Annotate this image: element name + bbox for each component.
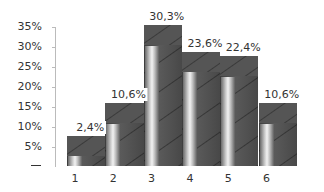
data-label: 10,6% — [109, 88, 148, 101]
bar-chart: 35% 30% 25% 20% 15% 10% 5% 123456 2,4%10… — [0, 0, 324, 192]
box-top-face — [182, 52, 220, 72]
x-tick-label: 4 — [180, 172, 200, 185]
box-top-face — [144, 25, 182, 45]
y-tick — [52, 67, 55, 68]
y-axis-zero-marker — [31, 165, 41, 166]
bar-cylinder — [68, 156, 82, 166]
box-top-face — [259, 103, 297, 123]
x-tick-label: 2 — [103, 172, 123, 185]
y-tick — [52, 147, 55, 148]
y-tick-label: 25% — [8, 60, 42, 73]
y-tick — [52, 87, 55, 88]
data-label: 30,3% — [147, 10, 186, 23]
y-tick-label: 30% — [8, 40, 42, 53]
data-label: 10,6% — [262, 88, 301, 101]
data-label: 23,6% — [186, 37, 225, 50]
y-tick-label: 10% — [8, 120, 42, 133]
box-top-face — [220, 56, 258, 76]
y-tick — [52, 27, 55, 28]
box-top-face — [105, 103, 143, 123]
y-tick-label: 35% — [8, 20, 42, 33]
y-tick — [52, 47, 55, 48]
data-label: 2,4% — [74, 121, 106, 134]
y-tick-label: 20% — [8, 80, 42, 93]
bar-cylinder — [106, 124, 120, 166]
data-label: 22,4% — [224, 41, 263, 54]
bar-cylinder — [260, 124, 274, 166]
y-tick-label: 5% — [8, 140, 42, 153]
y-tick — [52, 107, 55, 108]
bar-cylinder — [183, 72, 197, 166]
x-tick-label: 1 — [65, 172, 85, 185]
box-top-face — [67, 136, 105, 156]
x-tick-label: 3 — [142, 172, 162, 185]
y-axis-line — [55, 27, 56, 167]
y-tick-label: 15% — [8, 100, 42, 113]
bar-cylinder — [145, 46, 159, 166]
x-tick-label: 5 — [218, 172, 238, 185]
bar-cylinder — [221, 77, 235, 166]
y-tick — [52, 127, 55, 128]
x-tick-label: 6 — [257, 172, 277, 185]
